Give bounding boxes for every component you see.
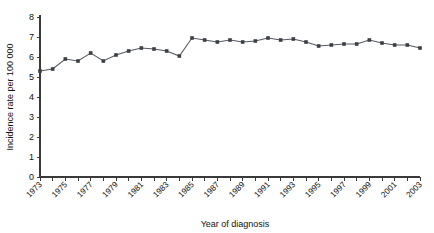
x-axis-tick-label: 1975 <box>50 180 70 200</box>
data-point-marker <box>89 51 93 55</box>
data-point-marker <box>152 47 156 51</box>
data-series <box>38 36 422 73</box>
data-point-marker <box>368 38 372 42</box>
data-point-marker <box>393 43 397 47</box>
data-point-marker <box>190 36 194 40</box>
data-point-marker <box>330 43 334 47</box>
data-point-marker <box>64 57 68 61</box>
data-point-marker <box>165 49 169 53</box>
data-point-marker <box>317 44 321 48</box>
x-axis-tick-label: 1979 <box>101 180 121 200</box>
series-polyline <box>40 38 420 71</box>
x-axis-tick-label: 1973 <box>25 180 45 200</box>
data-point-marker <box>406 43 410 47</box>
data-point-marker <box>102 59 106 63</box>
data-point-marker <box>203 38 207 42</box>
data-point-marker <box>380 41 384 45</box>
data-point-marker <box>241 40 245 44</box>
data-point-marker <box>178 54 182 58</box>
data-point-marker <box>38 69 42 73</box>
x-axis-tick-label: 1977 <box>75 180 95 200</box>
x-axis-tick-label: 1987 <box>202 180 222 200</box>
y-axis-tick-label: 7 <box>29 32 34 42</box>
data-point-marker <box>228 38 232 42</box>
data-point-marker <box>76 59 80 63</box>
y-axis-tick-label: 4 <box>29 92 34 102</box>
x-axis-tick-label: 1989 <box>227 180 247 200</box>
data-point-marker <box>342 42 346 46</box>
data-point-marker <box>51 67 55 71</box>
data-point-marker <box>355 42 359 46</box>
chart-canvas: 012345678 197319751977197919811983198519… <box>0 0 434 233</box>
x-axis-tick-label: 1991 <box>253 180 273 200</box>
x-axis: 1973197519771979198119831985198719891991… <box>25 177 425 199</box>
data-point-marker <box>216 40 220 44</box>
x-axis-tick-label: 2001 <box>379 180 399 200</box>
y-axis-tick-label: 6 <box>29 52 34 62</box>
data-point-marker <box>292 37 296 41</box>
incidence-rate-line-chart: 012345678 197319751977197919811983198519… <box>0 0 434 233</box>
x-axis-tick-label: 1995 <box>303 180 323 200</box>
y-axis-title: Incidence rate per 100 000 <box>5 43 15 150</box>
x-axis-tick-label: 1983 <box>151 180 171 200</box>
x-axis-tick-label: 1981 <box>126 180 146 200</box>
x-axis-title: Year of diagnosis <box>201 219 270 229</box>
y-axis-tick-label: 2 <box>29 132 34 142</box>
x-axis-tick-label: 1997 <box>329 180 349 200</box>
x-axis-tick-label: 1999 <box>354 180 374 200</box>
data-point-marker <box>266 36 270 40</box>
y-axis: 012345678 <box>29 12 40 182</box>
x-axis-tick-label: 2003 <box>405 180 425 200</box>
data-point-marker <box>418 46 422 50</box>
data-point-marker <box>254 39 258 43</box>
data-point-marker <box>114 53 118 57</box>
y-axis-tick-label: 8 <box>29 12 34 22</box>
y-axis-tick-label: 3 <box>29 112 34 122</box>
x-axis-tick-label: 1985 <box>177 180 197 200</box>
y-axis-tick-label: 1 <box>29 152 34 162</box>
data-point-marker <box>140 46 144 50</box>
x-axis-tick-label: 1993 <box>278 180 298 200</box>
data-point-marker <box>127 49 131 53</box>
data-point-marker <box>279 38 283 42</box>
data-point-marker <box>304 40 308 44</box>
y-axis-tick-label: 0 <box>29 172 34 182</box>
y-axis-tick-label: 5 <box>29 72 34 82</box>
